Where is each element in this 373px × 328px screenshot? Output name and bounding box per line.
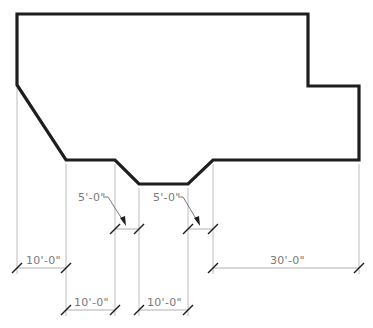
dimension-bottom-mid-10ft: 10'-0" <box>134 296 193 315</box>
floor-plan-drawing: 10'-0" 10'-0" 10'-0" 30'-0" 5'-0" 5 <box>0 0 373 328</box>
dimension-notch-right-5ft: 5'-0" <box>153 191 218 234</box>
dimension-right-30ft: 30'-0" <box>208 254 364 273</box>
extension-lines <box>17 88 359 316</box>
dimension-left-10ft: 10'-0" <box>12 254 71 273</box>
dimension-bottom-left-10ft: 10'-0" <box>61 296 120 315</box>
dimension-label: 10'-0" <box>147 296 182 309</box>
building-outline <box>17 14 359 184</box>
dimension-label: 10'-0" <box>26 254 61 267</box>
dimension-label: 10'-0" <box>74 296 109 309</box>
dimension-label: 5'-0" <box>78 191 106 204</box>
dimension-label: 5'-0" <box>153 191 181 204</box>
dimension-notch-left-5ft: 5'-0" <box>78 191 144 234</box>
dimension-label: 30'-0" <box>270 254 305 267</box>
